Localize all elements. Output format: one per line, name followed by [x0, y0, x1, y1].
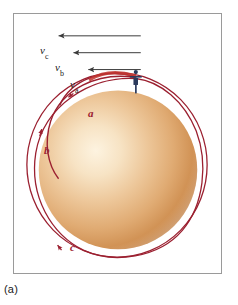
velocity-label-b: vb: [55, 61, 64, 76]
velocity-label-a: va: [70, 78, 78, 93]
planet-sphere-softedge: [39, 90, 197, 249]
trajectory-label-b: b: [44, 144, 50, 156]
velocity-subscript-c: c: [45, 52, 49, 61]
figure-root: vc vb va a b c (a): [0, 0, 238, 305]
velocity-subscript-b: b: [60, 69, 64, 78]
figure-caption: (a): [4, 282, 18, 296]
figure-frame: vc vb va a b c: [13, 13, 222, 274]
velocity-subscript-a: a: [75, 86, 79, 95]
velocity-label-c: vc: [40, 44, 48, 59]
trajectory-label-a: a: [88, 107, 94, 119]
trajectory-label-c: c: [70, 241, 75, 253]
trajectory-c-arrowhead: [58, 245, 62, 250]
planet-sphere-group: [39, 90, 197, 249]
